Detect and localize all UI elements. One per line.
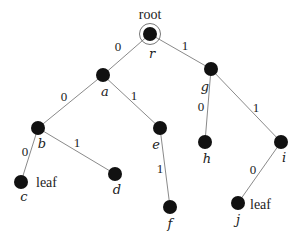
node-b <box>31 121 45 135</box>
node-g <box>204 62 218 76</box>
node-c <box>14 175 28 189</box>
root-annotation: root <box>139 7 162 22</box>
node-label-c: c <box>20 189 28 204</box>
edge-label-b-d: 1 <box>74 135 81 150</box>
edge-label-g-h: 0 <box>198 99 205 114</box>
node-label-i: i <box>282 150 286 165</box>
leaf-annotation-j: leaf <box>250 197 271 212</box>
node-label-a: a <box>101 84 109 99</box>
edge-label-a-b: 0 <box>61 89 68 104</box>
edge-label-e-f: 1 <box>157 161 164 176</box>
edge-labels-layer: 0101010110 <box>22 38 260 177</box>
node-a <box>96 68 110 82</box>
edge-label-i-j: 0 <box>250 162 257 177</box>
tree-diagram: 0101010110 ragbehicdfj root leafleaf <box>0 0 302 237</box>
edge-label-r-g: 1 <box>182 38 189 53</box>
node-label-h: h <box>203 151 211 166</box>
leaf-annotation-c: leaf <box>36 175 57 190</box>
node-label-f: f <box>167 216 175 231</box>
edge-a-b <box>38 75 103 128</box>
node-i <box>274 135 288 149</box>
edge-label-a-e: 1 <box>131 88 138 103</box>
edge-label-r-a: 0 <box>115 39 122 54</box>
node-h <box>198 135 212 149</box>
edge-label-b-c: 0 <box>22 144 29 159</box>
node-labels-layer: ragbehicdfj <box>20 46 286 231</box>
node-r <box>143 27 157 41</box>
edge-g-i <box>211 69 281 142</box>
node-label-j: j <box>233 212 240 227</box>
node-j <box>231 196 245 210</box>
node-d <box>108 167 122 181</box>
node-label-r: r <box>149 46 156 61</box>
node-label-d: d <box>113 182 121 197</box>
node-label-g: g <box>201 79 209 94</box>
edge-label-g-i: 1 <box>253 100 260 115</box>
node-f <box>163 200 177 214</box>
edge-i-j <box>238 142 281 203</box>
node-label-e: e <box>152 137 160 152</box>
node-e <box>153 121 167 135</box>
edge-r-a <box>103 34 150 75</box>
node-label-b: b <box>38 136 46 151</box>
